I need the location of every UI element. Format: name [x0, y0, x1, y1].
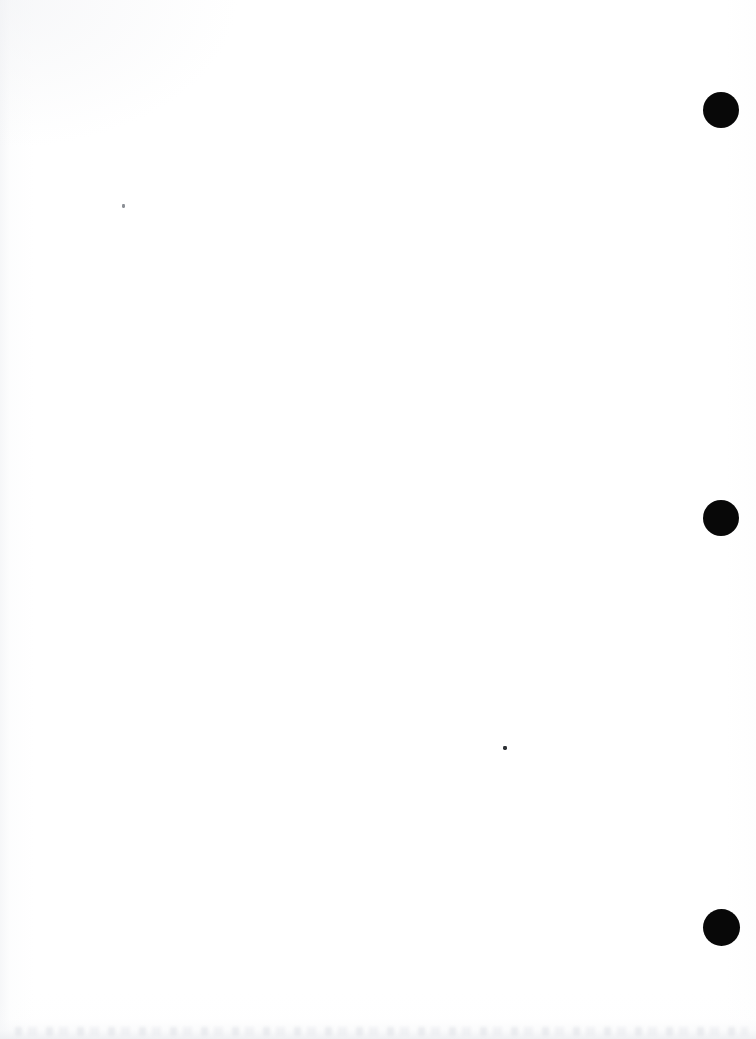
scanned-page	[0, 0, 756, 1039]
bottom-edge-ghosting	[0, 993, 756, 1039]
margin-dot-top	[703, 92, 739, 128]
speck-upper-left	[122, 204, 125, 208]
margin-dot-middle	[703, 500, 739, 536]
margin-dot-bottom	[703, 909, 740, 946]
paper-tone-overlay	[0, 0, 756, 1039]
speck-lower-mid	[503, 746, 507, 750]
top-left-scan-haze	[0, 0, 240, 150]
